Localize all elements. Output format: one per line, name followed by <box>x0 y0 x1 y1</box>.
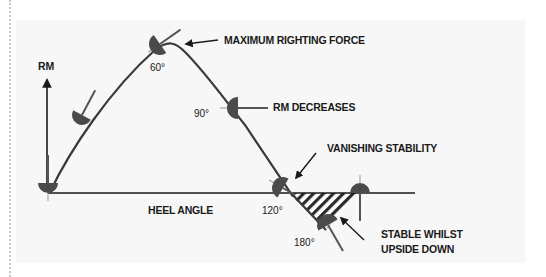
boat-icon-120deg <box>264 170 301 204</box>
max-force-arrow <box>186 40 218 44</box>
angle-label-90: 90° <box>194 108 209 119</box>
stability-curve-diagram: RM 60° MAXIMUM RIGHTING FORCE 90° RM DEC… <box>0 0 546 277</box>
rm-decreases-label: RM DECREASES <box>273 101 355 113</box>
boat-icon-90deg <box>220 97 268 119</box>
vanishing-stability-label: VANISHING STABILITY <box>327 142 437 154</box>
stable-upside-down-label-line2: UPSIDE DOWN <box>381 243 454 255</box>
vanishing-stability-arrow <box>296 153 316 178</box>
rm-axis-label: RM <box>38 60 54 72</box>
stable-upside-down-label-line1: STABLE WHILST <box>381 228 464 240</box>
heel-angle-label: HEEL ANGLE <box>148 204 213 216</box>
max-force-label: MAXIMUM RIGHTING FORCE <box>224 34 365 46</box>
angle-label-60: 60° <box>150 62 165 73</box>
boat-icon-30deg <box>68 86 103 129</box>
stable-upside-down-arrow <box>341 218 364 240</box>
righting-moment-curve <box>50 43 326 230</box>
angle-label-180: 180° <box>294 237 315 248</box>
angle-label-120: 120° <box>262 205 283 216</box>
boat-icon-0deg <box>38 155 58 201</box>
